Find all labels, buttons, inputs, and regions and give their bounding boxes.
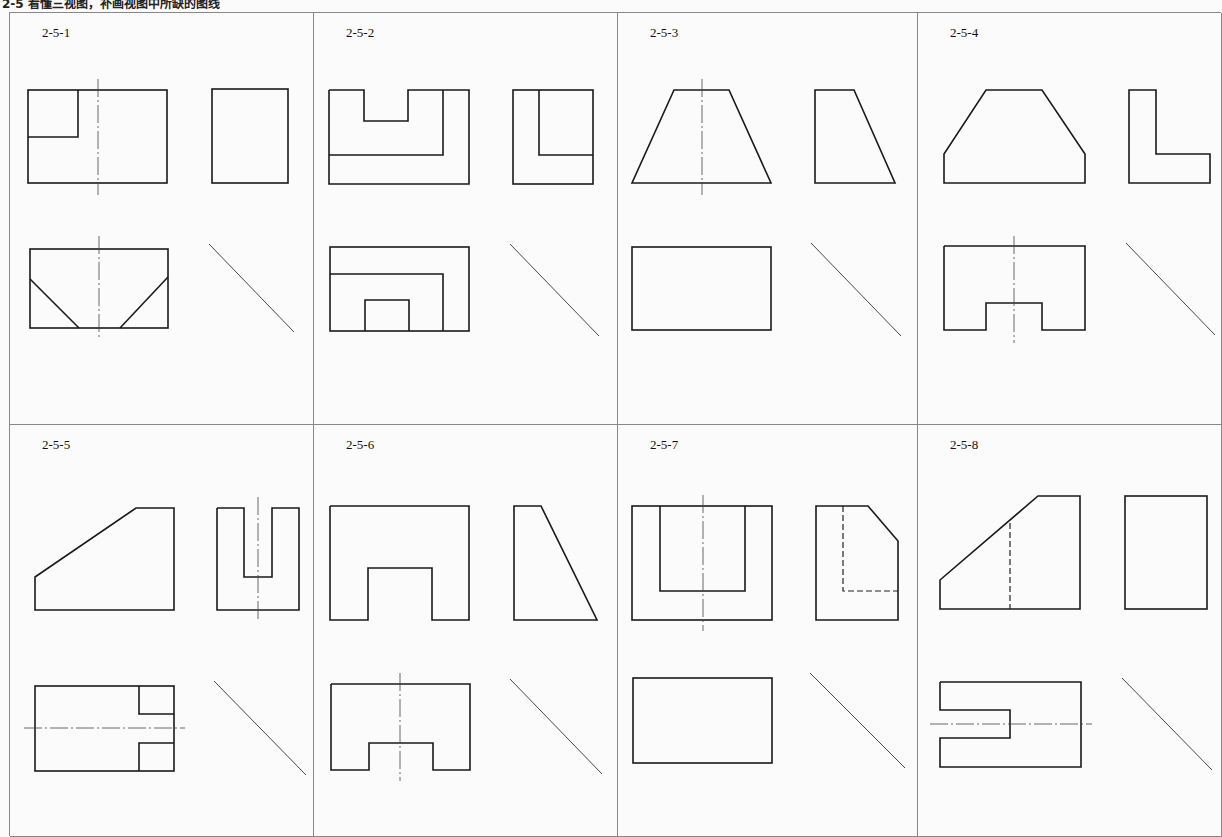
panel-2-5-3: 2-5-3 — [618, 13, 918, 425]
side-view — [1125, 496, 1207, 609]
three-view-drawing — [314, 13, 618, 425]
panel-2-5-7: 2-5-7 — [618, 425, 918, 837]
front-view — [329, 90, 469, 184]
panel-2-5-8: 2-5-8 — [918, 425, 1222, 837]
panel-2-5-2: 2-5-2 — [314, 13, 618, 425]
side-view — [212, 89, 288, 183]
front-view — [35, 508, 174, 610]
miter-line — [209, 244, 294, 332]
three-view-drawing — [618, 425, 918, 837]
top-view — [632, 247, 771, 330]
side-view — [514, 506, 597, 620]
three-view-drawing — [618, 13, 918, 425]
front-view — [330, 506, 469, 620]
panel-2-5-4: 2-5-4 — [918, 13, 1222, 425]
top-view — [944, 236, 1085, 343]
front-view — [632, 495, 772, 631]
three-view-drawing — [10, 13, 314, 425]
miter-line — [811, 243, 901, 336]
panel-2-5-5: 2-5-5 — [10, 425, 314, 837]
side-view — [816, 506, 898, 620]
miter-line — [214, 681, 306, 775]
miter-line — [810, 673, 905, 768]
front-view — [632, 79, 771, 195]
top-view — [30, 236, 168, 339]
page-title: 2-5 看懂三视图，补画视图中所缺的图线 — [2, 0, 220, 11]
top-view — [330, 247, 469, 331]
front-view — [940, 496, 1080, 609]
three-view-drawing — [918, 425, 1222, 837]
side-view — [1129, 90, 1210, 183]
top-view — [331, 673, 470, 781]
miter-line — [1126, 243, 1215, 335]
side-view — [513, 90, 593, 184]
panel-2-5-1: 2-5-1 — [10, 13, 314, 425]
miter-line — [510, 244, 599, 336]
three-view-drawing — [314, 425, 618, 837]
side-view — [815, 90, 895, 183]
side-view — [217, 497, 299, 621]
exercise-grid: 2-5-1 2-5-2 — [9, 12, 1221, 836]
miter-line — [510, 679, 602, 774]
three-view-drawing — [10, 425, 314, 837]
three-view-drawing — [918, 13, 1222, 425]
top-view — [24, 686, 185, 771]
front-view — [944, 90, 1085, 183]
panel-2-5-6: 2-5-6 — [314, 425, 618, 837]
front-view — [28, 79, 167, 195]
miter-line — [1122, 678, 1212, 770]
top-view — [930, 682, 1092, 767]
top-view — [633, 678, 772, 763]
